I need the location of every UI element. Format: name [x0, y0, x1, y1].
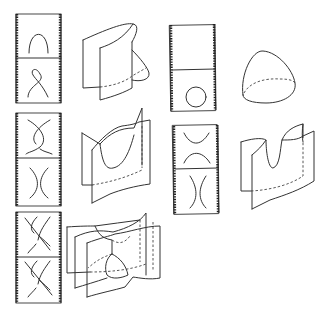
- cobordism-movie-diagram: [0, 0, 324, 315]
- surface-intersecting-sheets: [82, 108, 150, 203]
- surface-triple-point: [67, 213, 160, 297]
- film-strip-circle-birth: [169, 24, 216, 111]
- film-strip-saddle-twist: [16, 14, 61, 103]
- surface-dome: [243, 51, 296, 103]
- surface-folded-sheet: [83, 24, 149, 100]
- film-strip-saddle: [172, 125, 219, 215]
- film-strip-crossing-to-arcs: [16, 113, 61, 206]
- surface-saddle-sheet: [241, 124, 314, 209]
- film-strip-braid: [16, 212, 61, 303]
